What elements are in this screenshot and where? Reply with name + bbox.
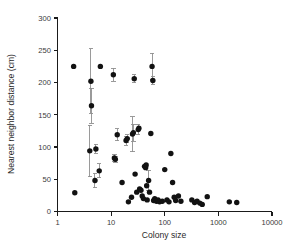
- data-point: [113, 157, 118, 162]
- y-tick-label: 250: [38, 46, 51, 55]
- data-point: [143, 162, 148, 167]
- data-point: [227, 199, 232, 204]
- data-point: [129, 195, 134, 200]
- data-point: [173, 198, 178, 203]
- data-point: [92, 178, 97, 183]
- scatter-plot-figure: 050100150200250300 110100100010000 Colon…: [0, 0, 285, 250]
- x-tick-label: 1: [55, 218, 59, 227]
- x-tick-label: 100: [158, 218, 171, 227]
- y-tick-label: 150: [38, 111, 51, 120]
- data-point: [148, 131, 153, 136]
- data-point: [72, 190, 77, 195]
- data-point: [71, 64, 76, 69]
- y-tick-label: 0: [47, 207, 51, 216]
- data-point: [88, 79, 93, 84]
- y-axis-title: Nearest neighbor distance (cm): [6, 54, 16, 174]
- data-point: [149, 64, 154, 69]
- y-tick-label: 300: [38, 14, 51, 23]
- data-point: [138, 188, 143, 193]
- x-axis-title: Colony size: [142, 230, 187, 240]
- data-point: [132, 171, 137, 176]
- y-tick-label: 100: [38, 143, 51, 152]
- data-point: [162, 167, 167, 172]
- data-point: [125, 136, 130, 141]
- data-points-layer: [71, 64, 239, 207]
- data-point: [144, 183, 149, 188]
- data-point: [115, 132, 120, 137]
- data-point: [132, 76, 137, 81]
- data-point: [87, 148, 92, 153]
- data-point: [200, 202, 205, 207]
- x-tick-label: 10000: [261, 218, 282, 227]
- data-point: [119, 180, 124, 185]
- data-point: [93, 146, 98, 151]
- data-point: [170, 180, 175, 185]
- data-point: [146, 178, 151, 183]
- data-point: [111, 72, 116, 77]
- plot-canvas: 050100150200250300 110100100010000 Colon…: [0, 0, 285, 250]
- data-point: [176, 193, 181, 198]
- data-point: [126, 199, 131, 204]
- data-point: [98, 64, 103, 69]
- data-point: [97, 168, 102, 173]
- data-point: [160, 198, 165, 203]
- y-tick-label: 200: [38, 78, 51, 87]
- data-point: [205, 194, 210, 199]
- data-point: [178, 198, 183, 203]
- x-tick-label: 1000: [210, 218, 227, 227]
- x-tick-group: 110100100010000: [55, 212, 282, 228]
- data-point: [136, 126, 141, 131]
- y-tick-label: 50: [43, 175, 51, 184]
- data-point: [166, 199, 171, 204]
- data-point: [150, 78, 155, 83]
- data-point: [234, 200, 239, 205]
- data-point: [168, 151, 173, 156]
- x-tick-label: 10: [107, 218, 115, 227]
- data-point: [144, 197, 149, 202]
- y-tick-group: 050100150200250300: [38, 14, 57, 217]
- data-point: [147, 189, 152, 194]
- axes-layer: [57, 18, 272, 212]
- data-point: [131, 130, 136, 135]
- data-point: [89, 103, 94, 108]
